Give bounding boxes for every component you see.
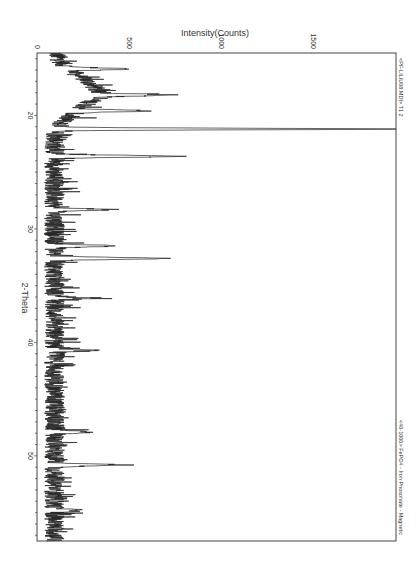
plot-area: 20304050	[27, 53, 396, 541]
plot-frame	[37, 53, 396, 541]
two-theta-tick-label: 30	[27, 225, 34, 233]
y-axis-title: Intensity(Counts)	[181, 28, 249, 38]
intensity-tick-label: 0	[34, 45, 41, 49]
two-theta-tick-label: 40	[27, 338, 34, 346]
xrd-chart: Intensity(Counts) 050010001500 20304050 …	[0, 0, 420, 572]
intensity-tick-label: 1000	[218, 33, 225, 49]
intensity-tick-labels: 050010001500	[34, 33, 317, 49]
x-axis-title: 2-Theta	[20, 282, 30, 313]
two-theta-tick-label: 20	[27, 112, 34, 120]
two-theta-tick-label: 50	[27, 452, 34, 460]
legend-sample: <PF-LILIU08.MDI> T1 2	[398, 58, 404, 117]
intensity-tick-label: 1500	[310, 33, 317, 49]
diffraction-trace	[44, 53, 396, 541]
intensity-tick-label: 500	[126, 37, 133, 49]
legend-reference: <40-1000> FePO4 - Iron Phosphate - Magne…	[398, 420, 404, 535]
